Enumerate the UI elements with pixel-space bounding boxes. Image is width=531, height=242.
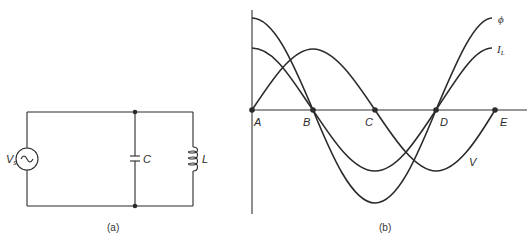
waveform-graph: A B C D E ϕ IL V (b)	[249, 10, 527, 233]
label-a: A	[253, 116, 261, 128]
current-label: IL	[496, 43, 505, 57]
caption-a: (a)	[107, 222, 119, 233]
label-e: E	[500, 116, 508, 128]
inductor-icon	[189, 147, 198, 171]
label-c: C	[365, 116, 373, 128]
flux-label: ϕ	[498, 13, 504, 25]
point-d	[433, 107, 439, 113]
capacitor-label: C	[143, 153, 151, 165]
point-b	[310, 107, 316, 113]
caption-b: (b)	[379, 222, 391, 233]
point-a	[249, 107, 255, 113]
label-b: B	[303, 116, 310, 128]
point-e	[492, 107, 498, 113]
inductor-label: L	[202, 153, 208, 165]
capacitor-icon	[130, 156, 140, 161]
point-c	[372, 107, 378, 113]
figure: Vs C L (a) A B C D E ϕ IL V (b)	[0, 0, 531, 242]
lc-circuit: Vs C L (a)	[6, 110, 208, 233]
voltage-label: V	[469, 156, 478, 168]
source-label: Vs	[6, 153, 17, 166]
ac-source-icon	[16, 148, 38, 170]
label-d: D	[440, 116, 448, 128]
